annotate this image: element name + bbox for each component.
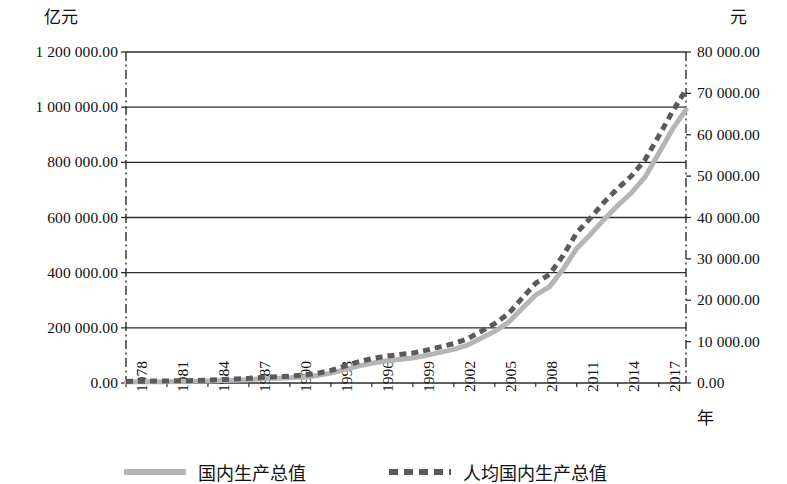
right-axis-tick-label: 20 000.00 xyxy=(697,292,760,307)
right-axis-tick-label: 50 000.00 xyxy=(697,168,760,183)
left-axis-tick-label: 200 000.00 xyxy=(47,320,118,335)
legend-item-gdp-per-capita: 人均国内生产总值 xyxy=(389,460,607,484)
right-axis-unit-label: 元 xyxy=(730,3,747,28)
plot-area xyxy=(126,52,686,383)
left-axis-tick-label: 0.00 xyxy=(90,375,118,390)
gdp-chart-figure: 亿元 元 1 200 000.001 000 000.00800 000.006… xyxy=(0,0,787,484)
left-axis-tick-label: 400 000.00 xyxy=(47,265,118,280)
right-axis-tick-label: 80 000.00 xyxy=(697,44,760,59)
legend-swatch-solid-line-icon xyxy=(124,465,186,479)
legend-label-gdp: 国内生产总值 xyxy=(198,459,306,484)
gdp-per-capita-line-series xyxy=(126,90,686,382)
right-axis-tick-label: 0.00 xyxy=(697,375,725,390)
left-axis-tick-label: 1 000 000.00 xyxy=(35,99,118,114)
left-axis-ticks xyxy=(121,52,126,383)
right-axis-tick-label: 10 000.00 xyxy=(697,334,760,349)
gdp-line-series xyxy=(126,110,686,382)
right-axis-tick-label: 30 000.00 xyxy=(697,251,760,266)
right-axis-tick-label: 70 000.00 xyxy=(697,85,760,100)
left-axis-tick-label: 800 000.00 xyxy=(47,154,118,169)
right-axis-ticks xyxy=(686,52,691,383)
gridlines xyxy=(126,52,686,383)
right-axis-tick-label: 40 000.00 xyxy=(697,210,760,225)
legend-item-gdp: 国内生产总值 xyxy=(124,460,306,484)
x-axis-title: 年 xyxy=(697,404,714,429)
legend-swatch-dashed-line-icon xyxy=(389,465,451,479)
right-axis-tick-label: 60 000.00 xyxy=(697,127,760,142)
left-axis-tick-label: 600 000.00 xyxy=(47,210,118,225)
plot-svg xyxy=(126,52,686,383)
left-axis-tick-label: 1 200 000.00 xyxy=(35,44,118,59)
left-axis-unit-label: 亿元 xyxy=(44,3,78,28)
chart-legend: 国内生产总值 人均国内生产总值 xyxy=(0,460,787,484)
legend-label-gdp-per-capita: 人均国内生产总值 xyxy=(463,459,607,484)
